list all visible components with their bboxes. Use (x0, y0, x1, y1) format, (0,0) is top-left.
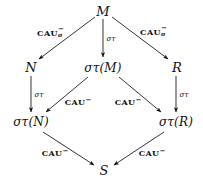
edge-label-sigmatau-N-to-S-sup: − (62, 146, 68, 155)
edge-label-M-to-N-scripts: −σ (58, 28, 63, 36)
diagram-arrows (0, 0, 203, 182)
node-S: S (99, 164, 108, 177)
edge-label-sigmatau-M-to-sigmatau-N: CAU− (65, 96, 92, 107)
edge-label-M-to-N: CAU−σ (37, 28, 63, 37)
edge-label-sigmatau-N-to-S-text: CAU (42, 148, 63, 158)
node-sigmatau-M: στ(M) (84, 62, 121, 74)
arrow-M-to-R (112, 17, 168, 59)
edge-label-M-to-R-scripts: −σ (161, 27, 166, 35)
edge-label-sigmatau-N-to-S: CAU− (42, 147, 69, 158)
edge-label-sigmatau-R-to-S-text: CAU (139, 148, 160, 158)
edge-label-sigmatau-R-to-S: CAU− (139, 147, 166, 158)
commutative-diagram: M N στ(M) R στ(N) στ(R) S CAU−σ στ CAU−σ… (0, 0, 203, 182)
edge-label-sigmatau-M-to-sigmatau-N-text: CAU (65, 97, 86, 107)
arrow-M-to-N (39, 17, 95, 59)
node-N: N (25, 61, 37, 74)
edge-label-M-to-N-text: CAU (37, 28, 58, 38)
edge-label-sigmatau-M-to-sigmatau-R: CAU− (115, 96, 142, 107)
edge-label-sigmatau-R-to-S-sup: − (159, 146, 165, 155)
node-sigmatau-R: στ(R) (159, 116, 193, 128)
edge-label-M-to-R: CAU−σ (140, 27, 166, 36)
edge-label-M-to-R-text: CAU (140, 27, 161, 37)
edge-label-sigmatau-M-to-sigmatau-N-sup: − (85, 95, 91, 104)
node-sigmatau-N: στ(N) (13, 116, 49, 128)
edge-label-sigmatau-M-to-sigmatau-R-text: CAU (115, 97, 136, 107)
edge-label-R-to-sigmatau-R: στ (179, 92, 188, 99)
edge-label-sigmatau-M-to-sigmatau-R-sup: − (135, 95, 141, 104)
edge-label-M-to-sigmatau-M: στ (106, 36, 115, 43)
edge-label-N-to-sigmatau-N: στ (34, 92, 43, 99)
node-M: M (96, 5, 110, 18)
node-R: R (172, 61, 182, 74)
